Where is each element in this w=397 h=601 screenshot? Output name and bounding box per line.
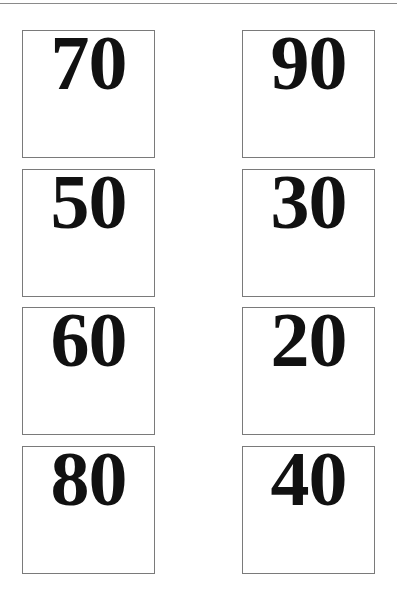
number-card-80: 80	[22, 446, 155, 574]
top-divider	[0, 3, 397, 4]
card-number: 70	[23, 24, 154, 102]
card-number: 60	[23, 301, 154, 379]
card-number: 80	[23, 440, 154, 518]
card-number: 30	[243, 163, 374, 241]
number-card-20: 20	[242, 307, 375, 435]
number-card-40: 40	[242, 446, 375, 574]
card-number: 20	[243, 301, 374, 379]
number-card-50: 50	[22, 169, 155, 297]
number-card-60: 60	[22, 307, 155, 435]
number-card-90: 90	[242, 30, 375, 158]
card-number: 50	[23, 163, 154, 241]
number-card-70: 70	[22, 30, 155, 158]
number-card-30: 30	[242, 169, 375, 297]
card-number: 40	[243, 440, 374, 518]
card-number: 90	[243, 24, 374, 102]
